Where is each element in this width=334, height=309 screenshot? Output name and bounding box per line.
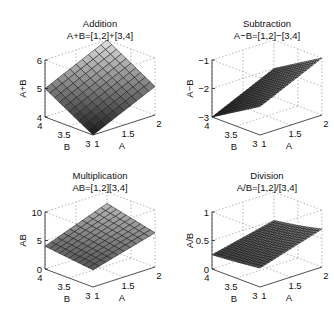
y-tick-label: 3	[252, 138, 257, 149]
y-axis-label: B	[231, 141, 237, 152]
x-axis-label: A	[286, 140, 293, 151]
y-tick-label: 3	[85, 290, 90, 301]
subplot-subtraction: −3−2−111.5233.54ABA−BSubtractionA−B=[1,2…	[184, 18, 329, 152]
y-tick-label: 4	[204, 120, 209, 131]
y-tick-label: 4	[37, 120, 42, 131]
z-tick-label: 1	[204, 207, 209, 218]
z-axis-label: A−B	[184, 79, 195, 97]
x-tick-label: 1	[94, 138, 99, 149]
subplot-subtitle: A+B=[1,2]+[3,4]	[67, 30, 133, 41]
x-tick-label: 1	[261, 290, 266, 301]
y-tick-label: 3.5	[224, 281, 237, 292]
subplot-title: Addition	[83, 18, 117, 29]
z-tick-label: 5	[37, 235, 42, 246]
x-tick-label: 2	[156, 270, 161, 281]
x-tick-label: 1.5	[121, 280, 134, 291]
subplot-addition: 45611.5233.54ABA+BAdditionA+B=[1,2]+[3,4…	[17, 18, 162, 152]
x-axis-label: A	[286, 292, 293, 303]
surface	[212, 58, 322, 117]
y-axis-label: B	[64, 293, 70, 304]
z-tick-label: −2	[198, 83, 209, 94]
x-tick-label: 1.5	[288, 128, 301, 139]
subplot-division: 00.5111.5233.54ABA/BDivisionA/B=[1,2]/[3…	[184, 170, 329, 304]
y-axis-label: B	[64, 141, 70, 152]
surface	[212, 221, 322, 269]
x-tick-label: 2	[156, 118, 161, 129]
surface	[45, 40, 155, 135]
subplot-title: Subtraction	[243, 18, 291, 29]
y-tick-label: 3	[252, 290, 257, 301]
x-tick-label: 1	[261, 138, 266, 149]
x-axis-label: A	[119, 292, 126, 303]
y-tick-label: 4	[37, 272, 42, 283]
y-axis-label: B	[231, 293, 237, 304]
subplot-subtitle: AB=[1,2][3,4]	[72, 182, 127, 193]
z-tick-label: 0.5	[196, 235, 209, 246]
y-tick-label: 3.5	[57, 281, 70, 292]
subplot-title: Multiplication	[73, 170, 128, 181]
z-axis-label: A/B	[184, 233, 195, 248]
x-tick-label: 2	[323, 270, 328, 281]
x-axis-label: A	[119, 140, 126, 151]
y-tick-label: 3.5	[224, 129, 237, 140]
z-tick-label: 10	[31, 207, 42, 218]
subplot-subtitle: A−B=[1,2]−[3,4]	[234, 30, 300, 41]
x-tick-label: 2	[323, 118, 328, 129]
subplot-subtitle: A/B=[1,2]/[3,4]	[237, 182, 297, 193]
y-tick-label: 4	[204, 272, 209, 283]
x-tick-label: 1	[94, 290, 99, 301]
surface	[45, 203, 155, 270]
subplot-multiplication: 051011.5233.54ABABMultiplicationAB=[1,2]…	[17, 170, 162, 304]
x-tick-label: 1.5	[121, 128, 134, 139]
z-tick-label: −1	[198, 55, 209, 66]
y-tick-label: 3.5	[57, 129, 70, 140]
z-axis-label: A+B	[17, 79, 28, 97]
y-tick-label: 3	[85, 138, 90, 149]
figure: 45611.5233.54ABA+BAdditionA+B=[1,2]+[3,4…	[0, 0, 334, 309]
z-tick-label: 5	[37, 83, 42, 94]
z-axis-label: AB	[17, 234, 28, 247]
x-tick-label: 1.5	[288, 280, 301, 291]
subplot-title: Division	[250, 170, 283, 181]
z-tick-label: 6	[37, 55, 42, 66]
